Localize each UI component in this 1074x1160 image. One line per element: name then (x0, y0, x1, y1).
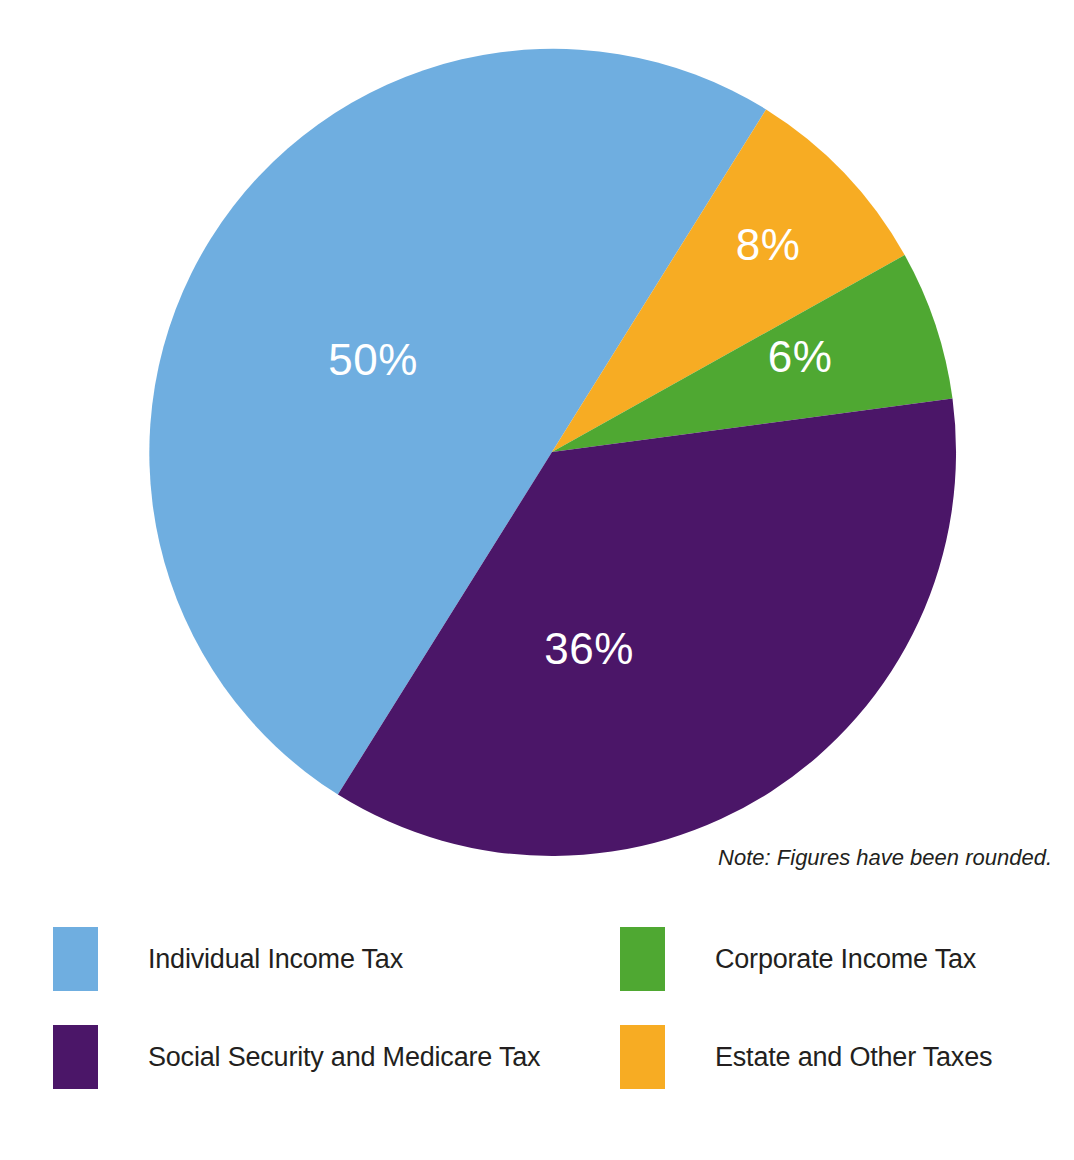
legend-item-estate-and-other-taxes[interactable]: Estate and Other Taxes (620, 1025, 992, 1089)
legend-label-social-security-medicare-tax: Social Security and Medicare Tax (148, 1042, 540, 1073)
legend-label-individual-income-tax: Individual Income Tax (148, 944, 403, 975)
chart-note: Note: Figures have been rounded. (718, 845, 1052, 871)
legend-label-estate-and-other-taxes: Estate and Other Taxes (715, 1042, 992, 1073)
chart-legend: Individual Income Tax Corporate Income T… (0, 925, 1074, 1110)
legend-item-corporate-income-tax[interactable]: Corporate Income Tax (620, 927, 976, 991)
pie-chart-figure: 50% 36% 6% 8% Note: Figures have been ro… (0, 0, 1074, 1160)
legend-item-individual-income-tax[interactable]: Individual Income Tax (53, 927, 403, 991)
legend-swatch-icon-corporate-income-tax (620, 927, 665, 991)
pie-label-estate-and-other-taxes: 8% (736, 220, 801, 269)
legend-label-corporate-income-tax: Corporate Income Tax (715, 944, 976, 975)
legend-swatch-icon-estate-and-other-taxes (620, 1025, 665, 1089)
pie-label-social-security-medicare-tax: 36% (544, 624, 634, 673)
pie-label-corporate-income-tax: 6% (768, 332, 833, 381)
legend-swatch-icon-individual-income-tax (53, 927, 98, 991)
pie-label-individual-income-tax: 50% (328, 335, 418, 384)
pie-chart-svg: 50% 36% 6% 8% (0, 0, 1074, 900)
legend-item-social-security-medicare-tax[interactable]: Social Security and Medicare Tax (53, 1025, 540, 1089)
legend-swatch-icon-social-security-medicare-tax (53, 1025, 98, 1089)
pie-chart-area: 50% 36% 6% 8% (0, 0, 1074, 900)
